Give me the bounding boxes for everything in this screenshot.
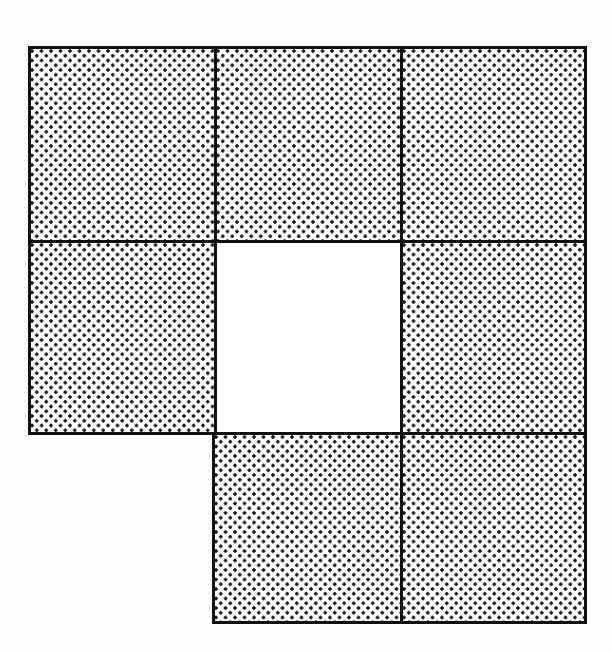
grid-figure — [0, 0, 612, 653]
cell-r1-c2-stippled — [400, 240, 587, 435]
cell-r0-c0-stippled — [28, 46, 218, 243]
cell-r2-c2-stippled — [400, 432, 587, 624]
cell-r0-c2-stippled — [400, 46, 587, 243]
cell-r2-c1-stippled — [212, 432, 404, 624]
cell-r1-c1-empty — [214, 240, 404, 435]
cell-r0-c1-stippled — [214, 46, 404, 243]
cell-r1-c0-stippled — [28, 240, 218, 435]
